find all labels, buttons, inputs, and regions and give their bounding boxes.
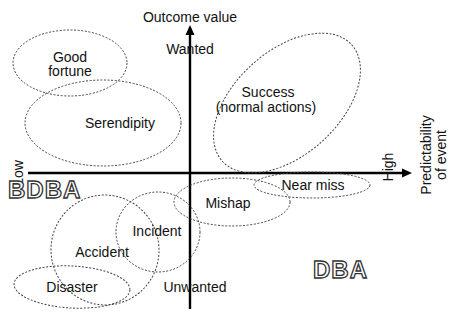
label-success-line2: (normal actions): [216, 99, 316, 115]
label-disaster: Disaster: [46, 279, 98, 295]
right-arrow-icon: [402, 169, 412, 178]
label-serendipity: Serendipity: [85, 115, 155, 131]
label-near-miss: Near miss: [281, 177, 344, 193]
y-axis-top-label: Wanted: [166, 41, 214, 57]
label-good-fortune-line2: fortune: [48, 63, 92, 79]
label-success-line1: Success: [242, 84, 295, 100]
y-axis-bottom-label: Unwanted: [163, 279, 226, 295]
x-axis-title-line2: of event: [433, 130, 449, 180]
y-axis-title: Outcome value: [143, 9, 237, 25]
x-axis-title-line1: Predictability: [418, 115, 434, 194]
x-axis-high-label: High: [380, 153, 396, 182]
label-incident: Incident: [132, 223, 181, 239]
label-accident: Accident: [75, 244, 129, 260]
region-label-bdba: BDBA: [8, 176, 81, 203]
up-arrow-icon: [186, 25, 195, 35]
label-mishap: Mishap: [205, 195, 250, 211]
region-label-dba: DBA: [313, 256, 368, 283]
outcome-predictability-diagram: Outcome value Wanted Unwanted Low High P…: [0, 0, 453, 322]
